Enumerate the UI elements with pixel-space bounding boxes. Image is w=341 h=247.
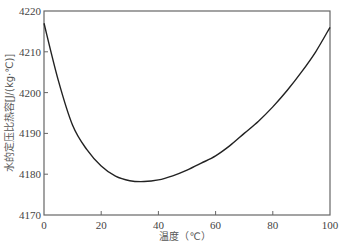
- x-tick-label: 0: [41, 219, 47, 231]
- y-tick-label: 4180: [19, 168, 42, 180]
- y-tick-label: 4220: [19, 5, 42, 17]
- chart: 417041804190420042104220 020406080100 温度…: [0, 0, 341, 247]
- x-axis-ticks: 020406080100: [41, 211, 339, 231]
- x-tick-label: 60: [210, 219, 222, 231]
- y-axis-title: 水的定压比热容[J/(kg·℃)]: [3, 54, 15, 173]
- y-tick-label: 4210: [19, 46, 42, 58]
- y-tick-label: 4170: [19, 209, 42, 221]
- x-axis-title: 温度（℃）: [159, 230, 210, 242]
- data-line: [44, 23, 330, 181]
- x-tick-label: 80: [267, 219, 279, 231]
- x-tick-label: 20: [96, 219, 108, 231]
- x-tick-label: 40: [153, 219, 165, 231]
- x-tick-label: 100: [322, 219, 339, 231]
- y-tick-label: 4190: [19, 127, 42, 139]
- y-tick-label: 4200: [19, 87, 42, 99]
- plot-frame: [44, 11, 330, 215]
